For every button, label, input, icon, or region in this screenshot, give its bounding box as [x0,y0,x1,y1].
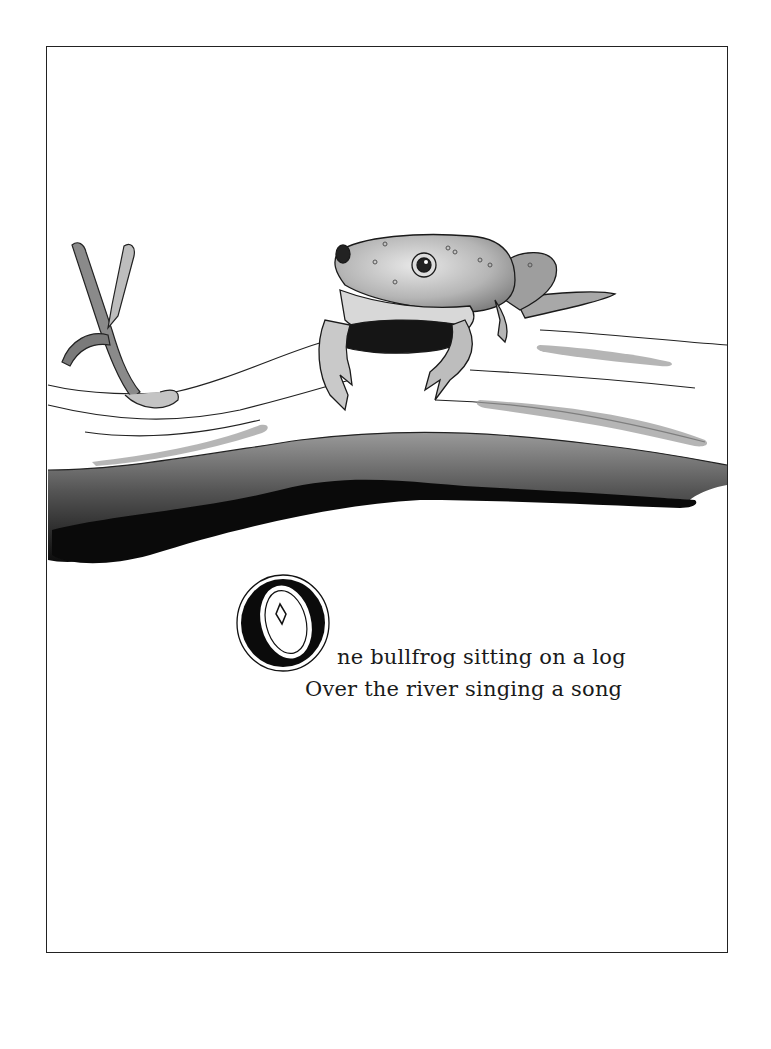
verse-line-1: ne bullfrog sitting on a log [337,645,626,669]
bullfrog-illustration [0,0,771,1049]
forked-branch [62,243,178,408]
verse-line-2: Over the river singing a song [305,677,622,701]
frog-figure [319,235,615,410]
log-shadow [48,432,727,563]
drop-cap-o [234,572,332,674]
